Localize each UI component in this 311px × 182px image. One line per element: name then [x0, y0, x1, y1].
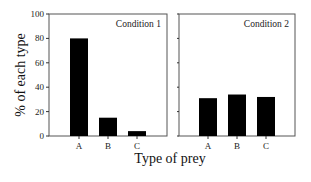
y-axis: 020406080100	[31, 9, 50, 141]
y-tick-label: 20	[35, 107, 45, 117]
x-tick-label: A	[205, 141, 212, 151]
bar-a	[199, 98, 217, 136]
panel-condition-1: Condition 1ABC	[49, 14, 167, 151]
x-tick-label: C	[263, 141, 269, 151]
bar-a	[70, 38, 88, 136]
bar-c	[257, 97, 275, 136]
bar-chart: Condition 1ABC Condition 2ABC 0204060801…	[0, 0, 311, 182]
x-tick-label: A	[76, 141, 83, 151]
panel-title: Condition 1	[116, 19, 161, 29]
y-tick-label: 80	[35, 33, 45, 43]
y-axis-title: % of each type	[13, 33, 28, 117]
panel-condition-2: Condition 2ABC	[177, 14, 295, 151]
y-tick-label: 40	[35, 82, 45, 92]
x-axis-title: Type of prey	[134, 151, 205, 166]
bar-c	[128, 131, 146, 136]
panel-title: Condition 2	[244, 19, 289, 29]
x-tick-label: B	[234, 141, 240, 151]
y-tick-label: 100	[31, 9, 45, 19]
y-tick-label: 60	[35, 58, 45, 68]
y-tick-label: 0	[40, 131, 45, 141]
x-tick-label: C	[134, 141, 140, 151]
bar-b	[228, 95, 246, 136]
x-tick-label: B	[105, 141, 111, 151]
bar-b	[99, 118, 117, 136]
